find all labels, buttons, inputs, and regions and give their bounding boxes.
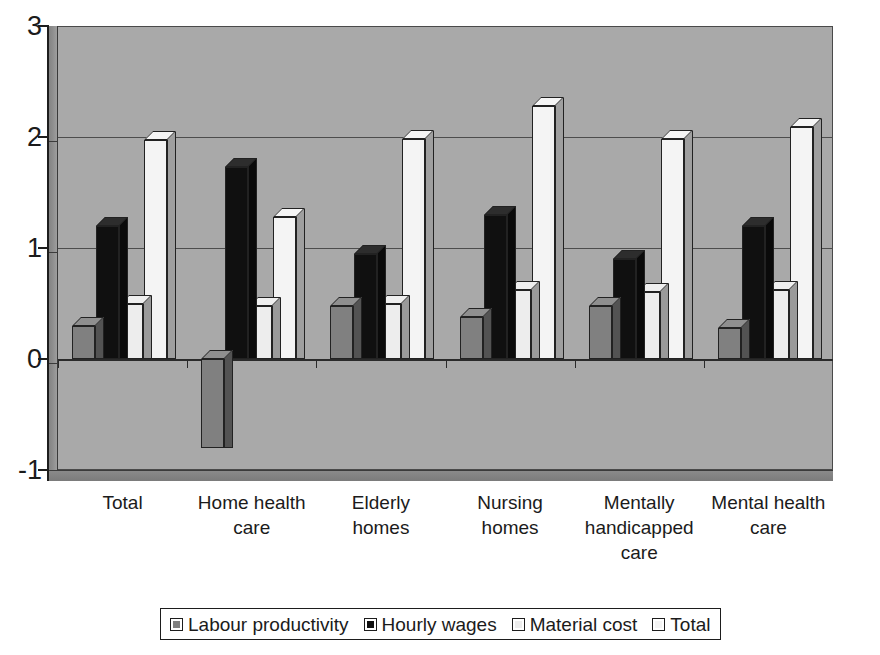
bar-side-face bbox=[425, 130, 434, 359]
legend-swatch bbox=[652, 618, 665, 631]
bar-side-face bbox=[248, 158, 257, 359]
legend-entry: Hourly wages bbox=[364, 615, 497, 634]
legend-swatch bbox=[170, 618, 183, 631]
bar-side-face bbox=[272, 297, 281, 359]
x-axis-tick-mark bbox=[575, 359, 576, 368]
bar-side-face bbox=[684, 130, 693, 359]
legend-entry: Total bbox=[652, 615, 710, 634]
bar-side-face bbox=[813, 118, 822, 359]
bar-side-face bbox=[531, 281, 540, 359]
legend-label: Material cost bbox=[530, 615, 638, 634]
bar bbox=[330, 306, 353, 359]
legend-entry: Labour productivity bbox=[170, 615, 349, 634]
bar-side-face bbox=[119, 217, 128, 359]
x-axis-tick-mark bbox=[316, 359, 317, 368]
x-axis-category-label: Elderly homes bbox=[316, 490, 445, 540]
bar-side-face bbox=[636, 250, 645, 359]
x-axis-tick-mark bbox=[446, 359, 447, 368]
bar-side-face bbox=[612, 297, 621, 359]
bar-front-face bbox=[589, 306, 612, 359]
x-axis-tick-mark bbox=[187, 359, 188, 368]
legend-swatch-fill bbox=[173, 621, 180, 628]
bar-side-face bbox=[353, 297, 362, 359]
bar-side-face bbox=[377, 245, 386, 359]
x-axis-category-label: Mental health care bbox=[704, 490, 833, 540]
bar bbox=[718, 328, 741, 359]
bar-side-face bbox=[143, 295, 152, 360]
bar-front-face bbox=[72, 326, 95, 359]
legend-swatch bbox=[512, 618, 525, 631]
bar-front-face bbox=[718, 328, 741, 359]
x-axis-category-label: Total bbox=[58, 490, 187, 515]
x-axis-tick-mark bbox=[704, 359, 705, 368]
legend-label: Total bbox=[670, 615, 710, 634]
bar bbox=[201, 359, 224, 448]
bar-front-face bbox=[460, 317, 483, 359]
bar bbox=[72, 326, 95, 359]
bar-front-face bbox=[330, 306, 353, 359]
legend-swatch bbox=[364, 618, 377, 631]
legend-swatch-fill bbox=[367, 621, 374, 628]
legend-entry: Material cost bbox=[512, 615, 638, 634]
x-axis-category-label: Nursing homes bbox=[446, 490, 575, 540]
legend-swatch-fill bbox=[655, 621, 662, 628]
bar-side-face bbox=[296, 208, 305, 359]
bar bbox=[225, 167, 248, 359]
bar bbox=[460, 317, 483, 359]
legend-label: Labour productivity bbox=[188, 615, 349, 634]
bar-side-face bbox=[765, 217, 774, 359]
bar-side-face bbox=[507, 206, 516, 359]
bar-side-face bbox=[401, 295, 410, 360]
legend-swatch-fill bbox=[515, 621, 522, 628]
legend-label: Hourly wages bbox=[382, 615, 497, 634]
bar-side-face bbox=[555, 97, 564, 359]
x-axis-category-label: Mentally handicapped care bbox=[575, 490, 704, 565]
bar-side-face bbox=[789, 281, 798, 359]
x-axis-label-group: TotalHome health careElderly homesNursin… bbox=[0, 490, 880, 590]
bar-chart: 3210-1 TotalHome health careElderly home… bbox=[0, 0, 880, 655]
bar-side-face bbox=[224, 350, 233, 448]
chart-legend: Labour productivityHourly wagesMaterial … bbox=[160, 608, 721, 640]
bar-front-face bbox=[201, 359, 224, 448]
bar bbox=[589, 306, 612, 359]
bar-side-face bbox=[660, 283, 669, 359]
x-axis-category-label: Home health care bbox=[187, 490, 316, 540]
bar-side-face bbox=[167, 131, 176, 359]
x-axis-tick-mark bbox=[58, 359, 59, 368]
bar-front-face bbox=[225, 167, 248, 359]
